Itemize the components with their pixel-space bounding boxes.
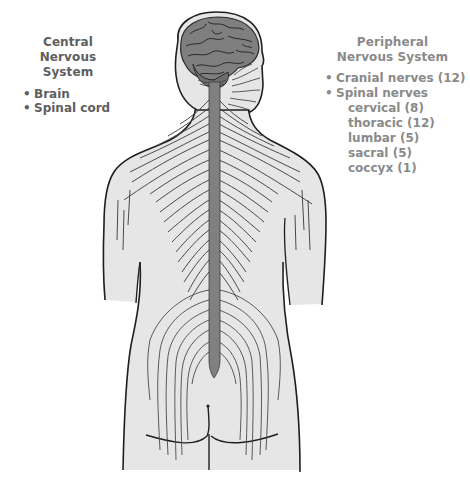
cns-item-list: • Brain • Spinal cord xyxy=(23,87,158,115)
pns-item-cranial-nerves: • Cranial nerves (12) xyxy=(325,71,470,86)
subitem-thoracic: thoracic (12) xyxy=(348,116,470,131)
bullet-icon: • xyxy=(23,87,31,101)
cns-item-spinal-cord: • Spinal cord xyxy=(23,101,158,115)
pns-item-label: Cranial nerves (12) xyxy=(336,71,465,85)
bullet-icon: • xyxy=(23,101,31,115)
cns-item-label: Brain xyxy=(34,87,70,101)
pns-title-line2: Nervous System xyxy=(325,50,460,65)
subitem-cervical: cervical (8) xyxy=(348,101,470,116)
pns-item-label: Spinal nerves xyxy=(336,86,428,100)
peripheral-nervous-system-legend: Peripheral Nervous System • Cranial nerv… xyxy=(325,35,470,176)
bullet-icon: • xyxy=(325,71,333,86)
cns-title-line1: Central xyxy=(18,35,118,50)
subitem-lumbar: lumbar (5) xyxy=(348,131,470,146)
cns-item-brain: • Brain xyxy=(23,87,158,101)
central-nervous-system-legend: Central Nervous System • Brain • Spinal … xyxy=(18,35,158,115)
pns-item-list: • Cranial nerves (12) • Spinal nerves xyxy=(325,71,470,101)
spinal-cord xyxy=(209,82,220,378)
spinal-nerve-subitems: cervical (8) thoracic (12) lumbar (5) sa… xyxy=(325,101,470,176)
pns-title-line1: Peripheral xyxy=(325,35,460,50)
cns-item-label: Spinal cord xyxy=(34,101,110,115)
cns-title: Central Nervous System xyxy=(18,35,118,80)
subitem-coccyx: coccyx (1) xyxy=(348,161,470,176)
pns-title: Peripheral Nervous System xyxy=(325,35,460,65)
bullet-icon: • xyxy=(325,86,333,101)
subitem-sacral: sacral (5) xyxy=(348,146,470,161)
cns-title-line2: Nervous System xyxy=(18,50,118,80)
pns-item-spinal-nerves: • Spinal nerves xyxy=(325,86,470,101)
